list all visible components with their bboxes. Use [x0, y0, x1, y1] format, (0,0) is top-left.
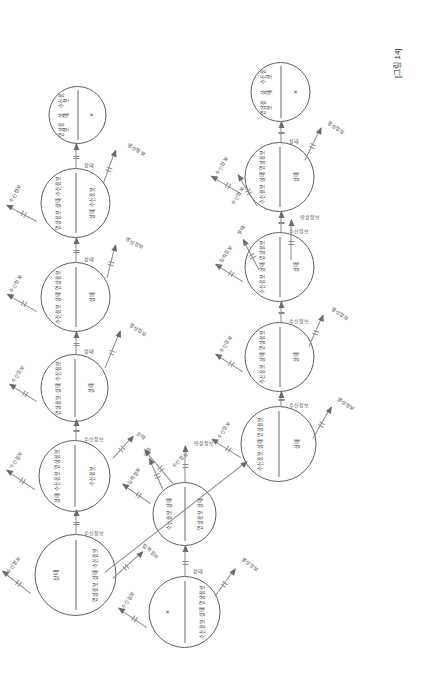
edge-label: 영상정보 — [326, 119, 347, 136]
arrow-head — [278, 391, 284, 398]
edge-label: 상태 — [84, 347, 94, 354]
node-L2[interactable]: 영상정보 상태 수신정보 상태 수신정보 — [40, 168, 110, 238]
node-R4[interactable]: 수신정보 상태 영상정보 상태 — [244, 322, 314, 392]
node-token: 수신정보 — [259, 364, 264, 384]
figure-page: 영상정보 상태 수신정보 × 영상정보 상태 수신정보 상태 수신정보 — [0, 0, 425, 690]
node-token: 상태 — [89, 209, 94, 219]
node-token: 수신정보 — [199, 619, 204, 639]
node-top-half: 수신정보 상태 영상정보 — [245, 323, 279, 391]
node-token: 상태 — [257, 439, 262, 449]
arrow-head — [136, 549, 145, 558]
edge-tick — [73, 156, 79, 157]
edge-label: 수신정보 — [84, 529, 104, 536]
edge-label: 수신정보 — [289, 401, 309, 408]
edge-tick — [182, 464, 188, 465]
edge-out-L3-a — [7, 294, 37, 312]
node-token: 상태 — [293, 172, 298, 182]
node-token: 영상정보 — [54, 449, 59, 469]
edge-label: 상태 — [135, 429, 147, 441]
node-top-half: × — [149, 577, 184, 647]
edge-tick — [73, 343, 79, 344]
node-bottom-half: × — [77, 87, 105, 143]
node-token: 상태 — [92, 570, 97, 580]
node-L6[interactable]: 상태 영상정보 상태 수신정보 — [34, 534, 116, 616]
node-bottom-half: 영상정보 상태 수신정보 — [75, 535, 115, 615]
node-bottom-half: 상태 — [75, 263, 109, 331]
node-token: 상태 — [259, 352, 264, 362]
node-top-half: 수신정보 상태 영상정보 — [245, 143, 279, 211]
edge-tick — [155, 476, 161, 479]
node-L4[interactable]: 영상정보 상태 수신정보 상태 — [40, 354, 108, 422]
arrow-head — [126, 433, 135, 442]
edge-tick — [73, 158, 79, 159]
node-top-half: 상태 수신정보 영상정보 — [39, 441, 74, 511]
edge-out-L5-b — [112, 436, 133, 459]
node-R1[interactable]: 영상정보 상태 수신정보 × — [250, 62, 310, 122]
node-bottom-half: × — [280, 63, 309, 121]
node-top-half: 수신정보 상태 영상정보 — [241, 407, 278, 481]
node-token: 상태 — [166, 498, 171, 508]
edge-tick — [278, 400, 284, 401]
node-R3[interactable]: 수신정보 상태 영상정보 상태 — [244, 232, 314, 302]
edge-label: 영상정보 — [126, 141, 147, 157]
node-token: 상태 — [259, 172, 264, 182]
node-bottom-half: 상태 — [279, 323, 313, 391]
edge-R4-R3 — [280, 302, 281, 322]
node-bottom-half: 상태 — [74, 355, 107, 421]
edge-label: 수신정보 — [217, 333, 234, 354]
node-bottom-half: 상태 — [279, 233, 313, 301]
node-token: 수신정보 — [89, 466, 94, 486]
edge-label: 수신정보 — [84, 435, 104, 442]
arrow-head — [315, 126, 323, 135]
node-L3[interactable]: 수신정보 상태 영상정보 상태 — [40, 262, 110, 332]
edge-L4-L3 — [75, 332, 76, 354]
edge-out-B1-c — [184, 446, 185, 482]
arrow-head — [182, 445, 188, 452]
edge-out-R3-c — [290, 220, 291, 260]
figure-caption: [그림 14] — [390, 48, 401, 78]
node-bottom-half: 수신정보 — [74, 441, 109, 511]
arrow-head — [317, 313, 325, 322]
edge-L6-L5 — [75, 510, 76, 534]
node-L5[interactable]: 상태 수신정보 영상정보 수신정보 — [38, 440, 110, 512]
edge-tick — [73, 345, 79, 346]
arrow-head — [278, 211, 284, 218]
node-top-half: 상태 — [35, 535, 75, 615]
edge-tick — [278, 133, 284, 134]
edge-out-L3-b — [106, 245, 115, 278]
node-B2[interactable]: × 수신정보 상태 영상정보 — [148, 576, 220, 648]
edge-out-R5-a — [211, 439, 240, 458]
node-token: 상태 — [294, 439, 299, 449]
node-token: × — [291, 90, 298, 94]
edge-label: 수신정보 — [7, 449, 24, 469]
edge-label: 수신정보 — [6, 273, 22, 294]
edge-tick — [278, 132, 284, 133]
node-token: 영상정보 — [55, 395, 60, 415]
node-R5[interactable]: 수신정보 상태 영상정보 상태 — [240, 406, 316, 482]
node-token: 영상정보 — [55, 270, 60, 290]
edge-label: 수신정보 — [215, 419, 232, 440]
node-bottom-half: 수신정보 상태 영상정보 — [184, 577, 219, 647]
edge-tick — [278, 313, 284, 314]
edge-tick — [73, 430, 79, 431]
edge-tick — [278, 223, 284, 224]
node-token: 영상정보 — [58, 121, 69, 138]
node-token: 영상정보 — [260, 98, 271, 116]
edge-tick — [73, 522, 79, 523]
node-token: 상태 — [88, 383, 93, 393]
edge-out-L4-a — [9, 384, 37, 402]
edge-tick — [182, 561, 188, 562]
edge-label: 수신정보 — [4, 554, 22, 574]
edge-label: 상태 — [84, 255, 94, 262]
node-top-half: 수신정보 상태 영상정보 — [41, 263, 75, 331]
node-top-half: 수신정보 상태 영상정보 — [245, 233, 279, 301]
node-L1[interactable]: 영상정보 상태 수신정보 × — [48, 86, 106, 144]
arrow-head — [278, 121, 284, 128]
arrow-head — [325, 405, 334, 414]
node-top-half: 영상정보 상태 수신정보 — [41, 355, 74, 421]
node-token: × — [87, 113, 94, 117]
node-token: 수신정보 — [55, 176, 60, 196]
node-token: 수신정보 — [89, 187, 94, 207]
edge-tick — [73, 431, 79, 432]
edge-label: 입력정보 — [125, 465, 142, 485]
